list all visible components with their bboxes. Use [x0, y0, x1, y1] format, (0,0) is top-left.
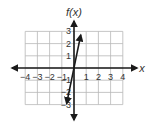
x-axis-label: x — [138, 62, 145, 74]
svg-text:2: 2 — [66, 39, 71, 49]
svg-text:−2: −2 — [44, 72, 54, 82]
graph: −4−3−2−11234321−1−2−3 f(x) x — [0, 0, 151, 127]
svg-text:4: 4 — [120, 72, 125, 82]
svg-text:1: 1 — [84, 72, 89, 82]
axes — [12, 21, 137, 120]
y-axis-label: f(x) — [66, 6, 82, 18]
svg-text:3: 3 — [108, 72, 113, 82]
svg-text:2: 2 — [96, 72, 101, 82]
svg-text:−1: −1 — [61, 75, 71, 85]
svg-text:−3: −3 — [61, 100, 71, 110]
svg-text:−3: −3 — [32, 72, 42, 82]
svg-text:1: 1 — [66, 51, 71, 61]
svg-text:−4: −4 — [20, 72, 30, 82]
svg-text:3: 3 — [66, 26, 71, 36]
